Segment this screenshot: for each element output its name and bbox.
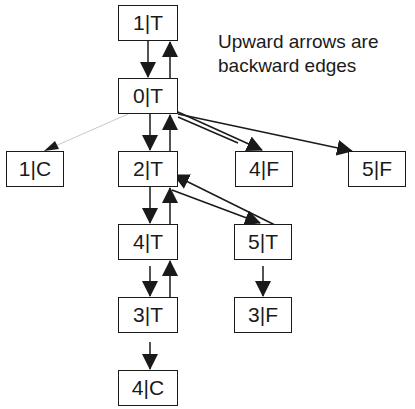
node-0T: 0|T [118, 78, 178, 114]
node-4T: 4|T [118, 224, 178, 260]
legend-note: Upward arrows are backward edges [218, 30, 379, 78]
legend-note-line-1: Upward arrows are [218, 30, 379, 54]
edge-2T-to-5T [172, 190, 260, 223]
node-5T: 5|T [234, 224, 292, 260]
node-3F: 3|F [234, 297, 292, 333]
node-3T: 3|T [118, 297, 178, 333]
node-2T: 2|T [118, 151, 178, 187]
node-1C: 1|C [6, 151, 64, 187]
node-4C: 4|C [118, 370, 178, 406]
node-5F: 5|F [348, 151, 406, 187]
legend-note-line-2: backward edges [218, 54, 379, 78]
node-1T: 1|T [118, 5, 178, 41]
edge-0T-to-5F [178, 114, 352, 151]
arrowhead-1C [44, 141, 59, 151]
node-4F: 4|F [235, 151, 293, 187]
edge-0T-to-4F [178, 112, 262, 150]
